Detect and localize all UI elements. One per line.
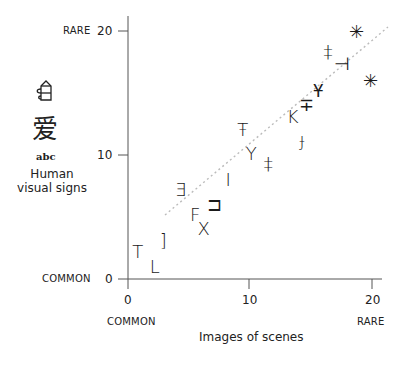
data-point-glyph: ✳ xyxy=(363,72,378,90)
data-point-glyph: ∃ xyxy=(175,181,186,199)
x-rare-label: RARE xyxy=(357,316,384,327)
data-point-glyph: T xyxy=(132,243,143,261)
data-point-glyph: Ұ xyxy=(313,82,323,100)
abc-sign: abc xyxy=(36,151,56,162)
data-point-glyph: ɟ xyxy=(300,131,306,149)
data-point-glyph: Ŧ xyxy=(237,121,248,139)
house-sign-icon xyxy=(37,81,51,100)
data-point-glyph: K xyxy=(287,108,299,126)
y-common-label: COMMON xyxy=(42,273,91,284)
x-axis-title: Images of scenes xyxy=(199,330,304,344)
data-point-glyph: ⊣ xyxy=(334,55,350,73)
data-point-glyph: ‡ xyxy=(264,155,273,173)
data-point-glyph: I xyxy=(225,171,230,189)
y-rare-label: RARE xyxy=(63,25,90,36)
data-point-glyph: ⊐ xyxy=(207,196,222,214)
data-point-glyph: ∓ xyxy=(299,96,314,114)
data-point-glyph: ‡ xyxy=(324,43,333,61)
kanji-sign: 爱 xyxy=(32,108,58,145)
data-point-glyph: ] xyxy=(160,232,167,250)
data-point-glyph: L xyxy=(150,258,160,276)
y-tick-20-label: 20 xyxy=(97,24,112,38)
data-point-glyph: X xyxy=(197,220,209,238)
y-tick-10-label: 10 xyxy=(97,148,112,162)
data-point-glyph: Y xyxy=(246,145,257,163)
x-tick-10-label: 10 xyxy=(242,293,257,307)
y-title-line2: visual signs xyxy=(8,181,96,195)
trend-line xyxy=(165,27,388,215)
x-tick-20-label: 20 xyxy=(365,293,380,307)
y-tick-0-label: 0 xyxy=(105,272,113,286)
y-title-line1: Human xyxy=(28,167,76,181)
x-tick-0-label: 0 xyxy=(124,293,132,307)
data-point-glyph: ✳ xyxy=(349,23,364,41)
x-common-label: COMMON xyxy=(107,316,156,327)
